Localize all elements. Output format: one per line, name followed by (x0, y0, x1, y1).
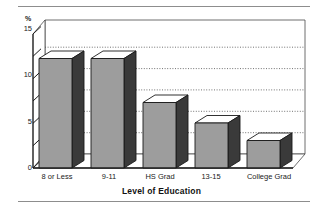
bar-hs-grad (143, 95, 188, 168)
bar-side-face (228, 116, 240, 169)
bar-front-face (247, 141, 280, 169)
x-tick-label-hs-grad: HS Grad (131, 173, 189, 181)
bar-college-grad (247, 133, 292, 168)
bar-front-face (195, 123, 228, 168)
bar-9-11 (91, 51, 136, 168)
bar-side-face (72, 51, 84, 168)
x-tick-label-8-or-less: 8 or Less (27, 173, 87, 181)
x-tick-label-9-11: 9-11 (83, 173, 135, 181)
chart-figure: % 15 10 5 0 (0, 0, 323, 211)
x-tick-label-13-15: 13-15 (185, 173, 237, 181)
bar-13-15 (195, 116, 240, 169)
bar-8-or-less (39, 51, 84, 168)
bar-side-face (176, 95, 188, 168)
bar-side-face (124, 51, 136, 168)
x-axis-title: Level of Education (0, 186, 323, 196)
bar-front-face (143, 103, 176, 169)
x-tick-label-college-grad: College Grad (233, 173, 305, 181)
bar-front-face (39, 59, 72, 169)
bar-front-face (91, 59, 124, 169)
